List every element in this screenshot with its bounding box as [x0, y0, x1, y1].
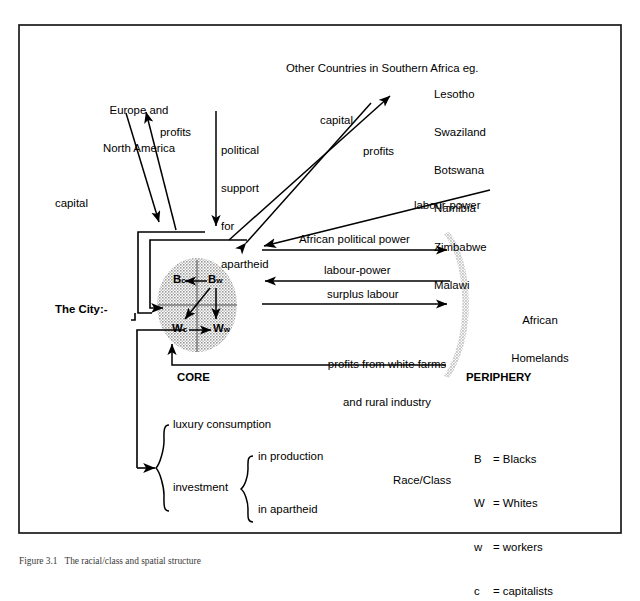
- flow-label-capital-europe: capital: [55, 197, 88, 210]
- legend-row: = capitalists: [493, 585, 553, 601]
- african-homelands-line1: African: [495, 314, 585, 327]
- legend-definition: = capitalists: [493, 585, 553, 597]
- legend-row: = workers: [493, 541, 553, 560]
- figure-caption: Figure 3.1 The racial/class and spatial …: [19, 556, 439, 567]
- profits-farms-line1: profits from white farms: [292, 358, 482, 371]
- label-in-apartheid: in apartheid: [258, 503, 318, 516]
- legend-title: Race/Class: [393, 474, 451, 487]
- label-core: CORE: [177, 371, 210, 384]
- core-class-Bw: Bw: [208, 273, 222, 286]
- label-investment: investment: [173, 481, 228, 494]
- city-bracket-tick: [131, 313, 135, 320]
- core-class-Bc: Bc: [173, 273, 186, 286]
- label-europe-line2: North America: [84, 142, 194, 155]
- flow-label-profits-other: profits: [363, 145, 394, 158]
- core-class-Wc-base: W: [172, 322, 183, 334]
- label-the-city: The City:-: [55, 303, 108, 316]
- core-class-Bc-sub: c: [181, 276, 185, 285]
- flow-label-capital-other: capital: [320, 114, 353, 127]
- political-support-line1: political: [221, 144, 269, 157]
- label-in-production: in production: [258, 450, 323, 463]
- label-african-homelands: African Homelands: [495, 288, 585, 390]
- core-class-Wc-sub: c: [183, 325, 187, 334]
- flow-label-profits-white-farms: profits from white farms and rural indus…: [292, 332, 482, 434]
- legend-symbol: c: [474, 585, 480, 597]
- core-class-Wc: Wc: [172, 322, 187, 335]
- legend-definition: = Blacks: [493, 453, 536, 465]
- political-support-line2: support: [221, 182, 269, 195]
- brace-investment: [241, 456, 253, 522]
- core-class-Bw-base: B: [208, 273, 216, 285]
- legend-symbol: w: [474, 541, 482, 553]
- african-homelands-line2: Homelands: [495, 352, 585, 365]
- label-europe-line1: Europe and: [84, 104, 194, 117]
- core-class-Ww-base: W: [213, 322, 224, 334]
- country-item: Malawi: [434, 279, 487, 292]
- legend-definition: = workers: [493, 541, 543, 553]
- flow-label-political-support: political support for apartheid: [221, 118, 269, 297]
- core-class-Bc-base: B: [173, 273, 181, 285]
- flow-label-african-political-power: African political power: [299, 233, 410, 246]
- profits-farms-line2: and rural industry: [292, 396, 482, 409]
- legend-row: = Whites: [493, 497, 553, 516]
- legend-row: w: [474, 541, 487, 560]
- flow-label-profits-europe: profits: [160, 126, 191, 139]
- country-item: Zimbabwe: [434, 241, 487, 254]
- country-item: Lesotho: [434, 88, 487, 101]
- flow-label-surplus-labour: surplus labour: [327, 288, 399, 301]
- legend-symbols: B W w c: [474, 427, 487, 601]
- legend-definition: = Whites: [493, 497, 538, 509]
- core-class-Ww-sub: w: [224, 325, 230, 334]
- core-class-Ww: Ww: [213, 322, 230, 335]
- legend-row: B: [474, 453, 487, 472]
- political-support-line3: for: [221, 220, 269, 233]
- legend-row: W: [474, 497, 487, 516]
- country-item: Swaziland: [434, 126, 487, 139]
- country-item: Botswana: [434, 164, 487, 177]
- legend-row: c: [474, 585, 487, 601]
- expenditure-trunk: [137, 330, 185, 468]
- legend-symbol: W: [474, 497, 485, 509]
- brace-expenditure: [156, 425, 169, 511]
- legend-definitions: = Blacks = Whites = workers = capitalist…: [493, 427, 553, 601]
- label-other-countries-list: Lesotho Swaziland Botswana Namibia Zimba…: [434, 62, 487, 317]
- label-luxury-consumption: luxury consumption: [173, 418, 271, 431]
- core-class-Bw-sub: w: [216, 276, 222, 285]
- flow-label-labour-power-diagonal: labour-power: [414, 199, 480, 212]
- legend-symbol: B: [474, 453, 482, 465]
- political-support-line4: apartheid: [221, 258, 269, 271]
- flow-label-labour-power-middle: labour-power: [324, 264, 390, 277]
- legend-row: = Blacks: [493, 453, 553, 472]
